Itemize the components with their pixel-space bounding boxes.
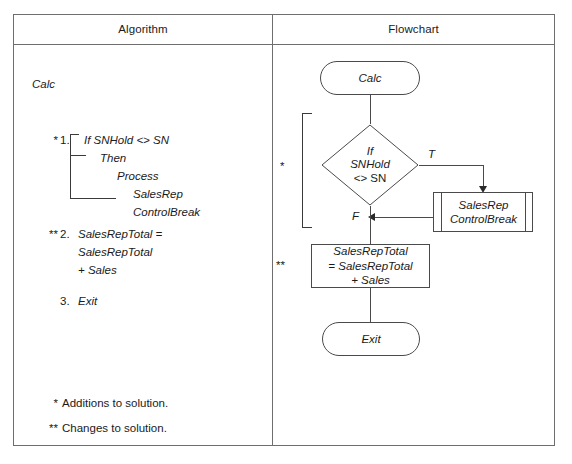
step3-line-1: Exit (78, 294, 97, 308)
flowchart-change-marker: ** (276, 258, 285, 272)
flowchart-bracket-bottom (302, 227, 312, 228)
connector-start-to-decision (370, 95, 371, 124)
flowchart-decision-diamond: If SNHold <> SN (321, 124, 419, 206)
predefined-line-2: ControlBreak (450, 212, 517, 227)
step1-line-5: ControlBreak (133, 205, 200, 219)
decision-line-2: SNHold (350, 158, 390, 172)
decision-line-3: <> SN (354, 172, 387, 186)
step1-line-4: SalesRep (133, 187, 183, 201)
step1-line-3: Process (117, 169, 159, 183)
predefined-line-1: SalesRep (459, 198, 509, 213)
algorithm-title: Calc (32, 77, 55, 91)
step2-line-3: + Sales (78, 263, 117, 277)
column-header-flowchart: Flowchart (273, 19, 554, 39)
flowchart-addition-marker: * (280, 159, 284, 173)
decision-false-label: F (352, 210, 359, 222)
step1-bracket-stem (70, 134, 71, 198)
connector-decision-to-process (370, 206, 371, 244)
flowchart-bracket-stem (302, 113, 303, 227)
column-divider (272, 14, 273, 446)
flowchart-process-box: SalesRepTotal = SalesRepTotal + Sales (311, 244, 430, 288)
flowchart-bracket-top (302, 113, 312, 114)
legend-marker-1: * (40, 396, 58, 410)
step1-bracket-top (70, 134, 79, 135)
step1-line-2: Then (100, 151, 126, 165)
header-divider (13, 44, 555, 45)
connector-true-horizontal (419, 165, 483, 166)
predefined-right-bar (525, 193, 526, 231)
flowchart-end-terminator: Exit (322, 322, 420, 356)
predefined-label: SalesRep ControlBreak (442, 193, 525, 231)
step1-number: 1. (60, 133, 70, 147)
connector-true-vertical (483, 165, 484, 186)
step2-line-2: SalesRepTotal (78, 245, 152, 259)
process-line-3: + Sales (351, 273, 390, 288)
legend-text-1: Additions to solution. (62, 396, 168, 410)
connector-process-to-end (370, 288, 371, 322)
process-line-2: = SalesRepTotal (328, 259, 412, 274)
process-line-1: SalesRepTotal (333, 244, 407, 259)
decision-line-1: If (367, 145, 373, 159)
connector-return-horizontal (375, 217, 433, 218)
flowchart-start-terminator: Calc (320, 61, 420, 95)
step1-bracket-mid (70, 155, 86, 156)
legend-text-2: Changes to solution. (62, 421, 167, 435)
step2-number: 2. (60, 227, 70, 241)
step3-number: 3. (60, 294, 70, 308)
decision-true-label: T (428, 148, 435, 160)
step1-line-1: If SNHold <> SN (84, 133, 169, 147)
legend-marker-2: ** (33, 421, 58, 435)
figure-root: Algorithm Flowchart Calc * 1. If SNHold … (0, 0, 572, 464)
step2-marker: ** (29, 227, 58, 241)
step1-marker: * (36, 133, 58, 147)
flowchart-predefined-process: SalesRep ControlBreak (433, 192, 533, 232)
step1-bracket-bottom (70, 198, 116, 199)
decision-label: If SNHold <> SN (321, 124, 419, 206)
step2-line-1: SalesRepTotal = (78, 227, 162, 241)
column-header-algorithm: Algorithm (14, 19, 272, 39)
